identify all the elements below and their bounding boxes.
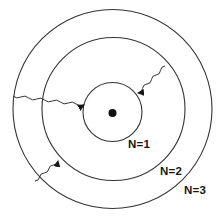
bohr-model-diagram: N=1 N=2 N=3 [0, 0, 222, 223]
orbit-label-n2: N=2 [160, 165, 182, 177]
diagram-canvas: N=1 N=2 N=3 [0, 0, 222, 223]
orbit-n2-circle [42, 38, 185, 181]
photon-arrow-n2-to-n1 [138, 66, 165, 93]
orbit-label-n1: N=1 [128, 138, 150, 150]
photon-arrow-n3-to-n2 [35, 161, 58, 181]
orbit-label-n3: N=3 [184, 184, 206, 196]
nucleus-dot [109, 109, 117, 117]
photon-arrow-n3-to-n1 [13, 96, 84, 106]
